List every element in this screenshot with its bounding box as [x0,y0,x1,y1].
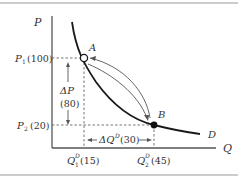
svg-text:1: 1 [22,58,26,65]
q2-label: Q D 2 (45) [137,152,171,168]
delta-p-arrowhead-down [66,120,70,125]
svg-text:(15): (15) [80,155,100,166]
x-axis-label: Q [223,142,232,155]
svg-text:2: 2 [145,161,149,168]
arc-a-to-b [88,64,147,118]
demand-label: D [207,129,216,140]
delta-p-arrowhead-up [66,62,70,67]
svg-text:Q: Q [137,155,145,166]
svg-text:ΔQ: ΔQ [98,134,114,145]
point-a [80,54,87,61]
svg-text:P: P [14,53,22,64]
delta-p-symbol: ΔP [59,85,74,96]
point-b [151,122,158,129]
demand-diagram: P Q D A B P 1 (100) P 2 (20) ΔP (80) ΔQ … [0,0,238,179]
svg-text:1: 1 [75,161,79,168]
p2-label: P 2 (20) [16,120,50,132]
demand-curve [72,22,200,134]
svg-text:Q: Q [67,155,75,166]
q1-label: Q D 1 (15) [67,152,100,168]
arrowhead-b [144,115,149,121]
svg-text:(20): (20) [30,120,50,131]
svg-text:(45): (45) [151,155,171,166]
svg-text:P: P [16,120,24,131]
svg-text:2: 2 [24,125,28,132]
arrowhead-a [90,56,96,61]
svg-text:(30): (30) [120,134,140,145]
point-b-label: B [157,109,165,120]
delta-q-arrowhead-left [87,138,92,142]
svg-text:D: D [144,152,150,159]
p1-label: P 1 (100) [14,53,53,65]
y-axis-label: P [33,16,42,29]
point-a-label: A [88,42,96,53]
svg-text:(100): (100) [27,53,53,64]
delta-p-value: (80) [60,98,80,109]
delta-q-arrowhead-right [147,138,152,142]
delta-q-label: ΔQ D (30) [98,132,140,145]
